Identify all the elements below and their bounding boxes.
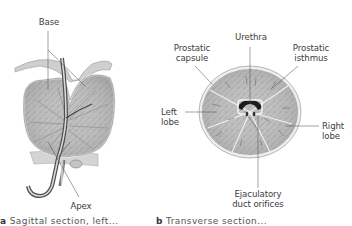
label-apex: Apex <box>69 201 93 211</box>
label-right-lobe-line1: Right <box>322 121 350 131</box>
label-right-lobe-line2: lobe <box>322 131 350 141</box>
label-prostatic-capsule: Prostatic capsule <box>170 43 214 63</box>
sagittal-section <box>15 31 115 197</box>
label-base: Base <box>37 17 61 27</box>
caption-b-letter: b <box>156 216 163 226</box>
label-urethra: Urethra <box>235 32 267 42</box>
label-prostatic-isthmus-line2: isthmus <box>289 53 333 63</box>
caption-a-text: Sagittal section, left... <box>10 216 119 226</box>
label-left-lobe: Left lobe <box>161 107 183 127</box>
caption-panel-b: b Transverse section... <box>156 216 267 226</box>
label-prostatic-isthmus-line1: Prostatic <box>289 43 333 53</box>
label-left-lobe-line1: Left <box>161 107 183 117</box>
label-ejaculatory-duct-orifices: Ejaculatory duct orifices <box>228 189 288 209</box>
label-ejaculatory-line1: Ejaculatory <box>228 189 288 199</box>
transverse-section <box>185 47 319 188</box>
label-left-lobe-line2: lobe <box>161 117 183 127</box>
label-ejaculatory-line2: duct orifices <box>228 199 288 209</box>
caption-b-text: Transverse section... <box>166 216 267 226</box>
caption-a-letter: a <box>0 216 6 226</box>
label-prostatic-capsule-line2: capsule <box>170 53 214 63</box>
label-prostatic-isthmus: Prostatic isthmus <box>289 43 333 63</box>
label-right-lobe: Right lobe <box>322 121 350 141</box>
capsule-leader <box>195 66 212 84</box>
label-prostatic-capsule-line1: Prostatic <box>170 43 214 53</box>
prostate-anatomy-figure: Base Apex Urethra Prostatic capsule Pros… <box>0 0 352 226</box>
caption-panel-a: a Sagittal section, left... <box>0 216 118 226</box>
